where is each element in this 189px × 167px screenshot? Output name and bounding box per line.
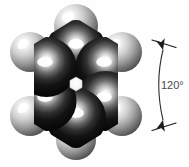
carbon-specular-highlight xyxy=(96,57,112,67)
bond-angle-label: 120° xyxy=(161,79,184,91)
carbon-specular-highlight xyxy=(68,39,84,49)
molecule-canvas: 120° xyxy=(0,0,189,167)
carbon-specular-highlight xyxy=(37,57,53,67)
molecular-model-figure: 120° xyxy=(0,0,189,167)
